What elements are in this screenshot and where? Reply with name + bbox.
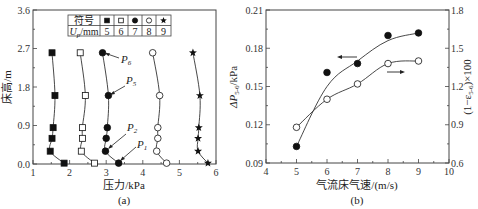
filled-square-marker	[47, 148, 53, 154]
filled-square-marker	[61, 160, 67, 166]
y-axis-label-a: 床高/m	[0, 70, 13, 104]
y-right-tick-label: 0.9	[451, 119, 464, 130]
x-tick-label: 4	[140, 167, 145, 178]
open-square-marker	[79, 135, 85, 141]
x-tick-label: 6	[325, 166, 330, 177]
y-right-tick-label: 0.6	[451, 158, 464, 169]
filled-circle-marker	[99, 49, 106, 56]
x-tick-label: 6	[214, 167, 219, 178]
open-circle-marker	[153, 148, 160, 155]
y-right-tick-label: 1.5	[451, 43, 464, 54]
y-left-tick-label: 0.21	[246, 5, 264, 16]
filled-square-marker	[49, 135, 55, 141]
filled-circle-marker	[103, 135, 110, 142]
x-tick-label: 9	[416, 166, 421, 177]
y-tick-label: 2.7	[18, 43, 31, 54]
filled-circle-marker	[415, 30, 422, 37]
filled-square-marker	[50, 125, 56, 131]
open-circle-marker	[354, 81, 361, 88]
open-circle-marker	[146, 18, 151, 23]
legend-value: 9	[161, 26, 166, 37]
filled-circle-marker	[104, 124, 111, 131]
x-tick-label: 1	[31, 167, 36, 178]
open-circle-marker	[415, 58, 422, 65]
series-line	[189, 49, 212, 167]
series-line	[293, 30, 422, 150]
legend-header-label: 符号	[74, 14, 94, 26]
panel-a-bed-height-vs-pressure: 123456 0.00.91.82.73.6 符号 Up/mm 5 6 7 8 …	[0, 5, 219, 208]
legend-row-label: Up/mm	[69, 26, 98, 39]
legend-value: 6	[119, 26, 124, 37]
open-square-marker	[82, 93, 88, 99]
filled-circle-marker	[385, 32, 392, 39]
x-tick-label: 5	[177, 167, 182, 178]
open-square-marker	[119, 18, 124, 23]
series-b	[293, 30, 422, 150]
y-left-tick-label: 0.18	[246, 43, 264, 54]
arrowhead-icon	[337, 55, 342, 59]
filled-circle-marker	[293, 143, 300, 150]
open-circle-marker	[155, 135, 162, 142]
legend-value: 5	[105, 26, 110, 37]
open-square-marker	[91, 160, 97, 166]
series-line	[77, 50, 97, 166]
y-right-tick-label: 1.8	[451, 5, 464, 16]
y-tick-label: 3.6	[18, 5, 31, 16]
arrowhead-icon	[400, 70, 405, 74]
chart-figure: 123456 0.00.91.82.73.6 符号 Up/mm 5 6 7 8 …	[0, 0, 478, 209]
y-tick-label: 0.0	[18, 159, 31, 170]
filled-star-marker	[194, 147, 202, 155]
y-left-tick-label: 0.09	[246, 158, 264, 169]
open-circle-marker	[385, 60, 392, 67]
series-line	[149, 49, 170, 166]
caption-b: (b)	[351, 194, 364, 207]
label-p5: P5	[125, 74, 137, 88]
series-line	[47, 50, 67, 166]
open-circle-marker	[293, 124, 300, 131]
filled-square-marker	[49, 50, 55, 56]
filled-circle-marker	[132, 18, 137, 23]
axis-direction-arrows	[337, 55, 405, 74]
panel-b-pressure-drop-vs-velocity: 45678910 0.090.120.150.180.21 0.60.91.21…	[227, 5, 475, 208]
label-p2: P2	[126, 121, 138, 135]
x-tick-label: 5	[294, 166, 299, 177]
caption-a: (a)	[118, 194, 131, 207]
x-tick-label: 7	[355, 166, 360, 177]
y-axis-ticks-a: 0.00.91.82.73.6	[18, 5, 38, 170]
open-square-marker	[79, 125, 85, 131]
open-square-marker	[77, 50, 83, 56]
legend-value: 7	[133, 26, 138, 37]
annotations-a: P6 P5 P2 P1	[105, 53, 147, 161]
legend-table-a: 符号 Up/mm 5 6 7 8 9	[68, 14, 171, 39]
open-circle-marker	[324, 96, 331, 103]
filled-circle-marker	[105, 92, 112, 99]
open-circle-marker	[149, 49, 156, 56]
filled-circle-marker	[115, 160, 122, 167]
filled-circle-marker	[324, 69, 331, 76]
x-axis-label-a: 压力/kPa	[103, 179, 145, 191]
filled-square-marker	[105, 18, 110, 23]
y-left-tick-label: 0.12	[246, 119, 264, 130]
x-axis-ticks-b: 45678910	[264, 159, 455, 177]
label-p6: P6	[120, 53, 132, 67]
filled-square-marker	[52, 93, 58, 99]
y-tick-label: 1.8	[18, 82, 31, 93]
filled-circle-marker	[102, 148, 109, 155]
y-left-tick-label: 0.15	[246, 81, 264, 92]
x-axis-label-b: 气流床气速/(m/s)	[316, 178, 398, 192]
open-square-marker	[78, 148, 84, 154]
series-line	[99, 49, 122, 166]
series-line	[293, 58, 422, 131]
x-tick-label: 4	[264, 166, 269, 177]
open-circle-marker	[163, 160, 170, 167]
legend-value: 8	[147, 26, 152, 37]
open-circle-marker	[156, 92, 163, 99]
x-tick-label: 3	[104, 167, 109, 178]
x-tick-label: 2	[67, 167, 72, 178]
x-axis-ticks-a: 123456	[31, 160, 219, 178]
filled-circle-marker	[354, 60, 361, 67]
y-axis-left-label-b: ΔP5-6/kPa	[227, 66, 241, 109]
label-p1: P1	[136, 138, 147, 152]
y-axis-left-ticks-b: 0.090.120.150.180.21	[246, 5, 271, 169]
open-circle-marker	[155, 124, 162, 131]
